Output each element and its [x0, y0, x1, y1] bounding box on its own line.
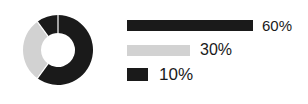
- legend-item-10[interactable]: 10%: [127, 66, 193, 83]
- legend-item-30[interactable]: 30%: [127, 42, 232, 58]
- legend-label-10: 10%: [159, 66, 193, 83]
- donut-chart: [23, 15, 93, 85]
- legend-swatch-bar-60: [127, 20, 253, 31]
- legend-label-30: 30%: [200, 42, 232, 58]
- legend-swatch-bar-30: [127, 45, 190, 56]
- legend-swatch-bar-10: [127, 68, 148, 81]
- donut-chart-figure: 60% 30% 10%: [0, 0, 308, 104]
- donut-chart-svg: [23, 15, 93, 85]
- legend-item-60[interactable]: 60%: [127, 18, 292, 33]
- chart-legend: 60% 30% 10%: [127, 18, 308, 90]
- legend-label-60: 60%: [262, 18, 292, 33]
